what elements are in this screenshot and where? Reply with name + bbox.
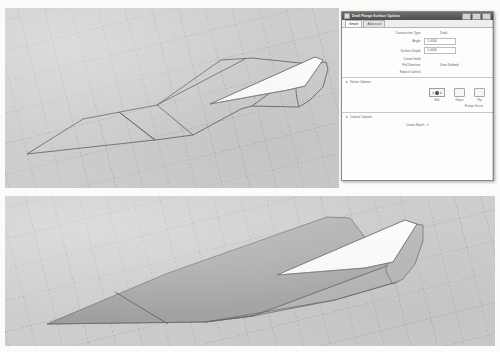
param-label-explicit-control: Explicit Control	[346, 70, 424, 74]
maximize-button[interactable]	[472, 13, 481, 20]
titlebar-buttons[interactable]	[462, 13, 491, 20]
prompt-vector-label[interactable]: Prompt Vector	[346, 102, 489, 108]
vector-flip-control[interactable]: Flip	[474, 88, 485, 102]
param-row-angle[interactable]: Angle 1.0000	[346, 38, 489, 45]
draft-flange-surface-options-dialog[interactable]: Draft Flange Surface Options Simple Adva…	[341, 11, 494, 181]
param-label-angle: Angle	[346, 39, 424, 43]
document-page: Draft Flange Surface Options Simple Adva…	[0, 0, 500, 352]
window-icon	[344, 13, 350, 19]
tab-advanced[interactable]: Advanced	[363, 20, 385, 27]
vector-reject-button[interactable]	[454, 88, 465, 97]
section-title-vector-options: Vector Options	[350, 80, 371, 84]
section-control-options: Control Options Create Notch ✓	[342, 112, 493, 129]
surface-depth-input[interactable]: 1.0000	[424, 47, 456, 54]
dialog-edge-shadow	[492, 13, 494, 181]
pull-direction-value[interactable]: User Defined	[424, 63, 489, 67]
vector-flip-label: Flip	[477, 98, 482, 102]
control-options-body: Create Notch ✓	[346, 119, 489, 127]
tab-simple[interactable]: Simple	[345, 20, 362, 27]
expander-triangle-icon[interactable]	[346, 116, 348, 118]
section-vector-options: Vector Options Edit Reject	[342, 77, 493, 110]
draft-flange-surface	[210, 57, 323, 104]
angle-input[interactable]: 1.0000	[424, 38, 456, 45]
create-notch-label: Create Notch	[406, 123, 424, 127]
param-label-create-solid: Create Solid	[346, 57, 424, 61]
vector-spinner[interactable]	[429, 88, 445, 97]
shaded-geometry	[5, 196, 495, 346]
viewport-wireframe[interactable]	[5, 8, 339, 188]
checkmark-icon[interactable]: ✓	[426, 123, 429, 126]
section-title-control-options: Control Options	[350, 115, 372, 119]
chevron-right-icon[interactable]	[440, 92, 442, 94]
chevron-left-icon[interactable]	[432, 92, 434, 94]
param-label-surface-depth: Surface Depth	[346, 49, 424, 53]
dialog-title: Draft Flange Surface Options	[352, 14, 460, 18]
param-row-surface-depth[interactable]: Surface Depth 1.0000	[346, 47, 489, 54]
dialog-tabstrip[interactable]: Simple Advanced	[342, 20, 493, 28]
dialog-titlebar[interactable]: Draft Flange Surface Options	[342, 12, 493, 20]
minimize-button[interactable]	[462, 13, 471, 20]
wireframe-geometry	[5, 8, 339, 188]
param-row-create-solid[interactable]: Create Solid	[346, 57, 489, 61]
vector-handle-icon[interactable]	[435, 91, 439, 95]
vector-reject-label: Reject	[455, 98, 463, 102]
param-value-construction-type[interactable]: Draft	[424, 31, 489, 35]
param-label-pull-direction: Pull Direction	[346, 63, 424, 67]
param-row-construction-type[interactable]: Construction Type Draft	[346, 31, 489, 35]
vector-flip-button[interactable]	[474, 88, 485, 97]
close-button[interactable]	[482, 13, 491, 20]
create-notch-option[interactable]: Create Notch ✓	[406, 123, 429, 127]
param-label-construction-type: Construction Type	[346, 31, 424, 35]
vector-edit-label: Edit	[435, 98, 440, 102]
viewport-shaded[interactable]	[5, 196, 495, 346]
vector-edit-control[interactable]: Edit	[429, 88, 445, 102]
param-row-explicit-control[interactable]: Explicit Control	[346, 70, 489, 74]
param-row-pull-direction[interactable]: Pull Direction User Defined	[346, 63, 489, 67]
vector-reject-control[interactable]: Reject	[454, 88, 465, 102]
vector-options-body: Edit Reject Flip	[346, 84, 489, 102]
expander-triangle-icon[interactable]	[346, 81, 348, 83]
dialog-body: Construction Type Draft Angle 1.0000 Sur…	[342, 28, 493, 74]
